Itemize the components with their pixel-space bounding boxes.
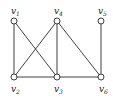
edges-group: [14, 21, 101, 77]
node-label-v6: v6: [99, 84, 108, 95]
node-label-v5: v5: [98, 6, 107, 17]
edge-v4-v6: [57, 21, 101, 77]
nodes-group: [11, 18, 104, 80]
node-v6: [98, 74, 104, 80]
node-label-v2: v2: [11, 84, 20, 95]
node-v1: [11, 18, 17, 24]
node-v3: [54, 74, 60, 80]
node-label-v1: v1: [11, 6, 20, 17]
node-v2: [11, 74, 17, 80]
node-v5: [98, 18, 104, 24]
node-label-v4: v4: [54, 6, 63, 17]
node-label-v3: v3: [54, 84, 63, 95]
graph-diagram: v1v4v5v2v3v6: [0, 0, 113, 98]
node-v4: [54, 18, 60, 24]
